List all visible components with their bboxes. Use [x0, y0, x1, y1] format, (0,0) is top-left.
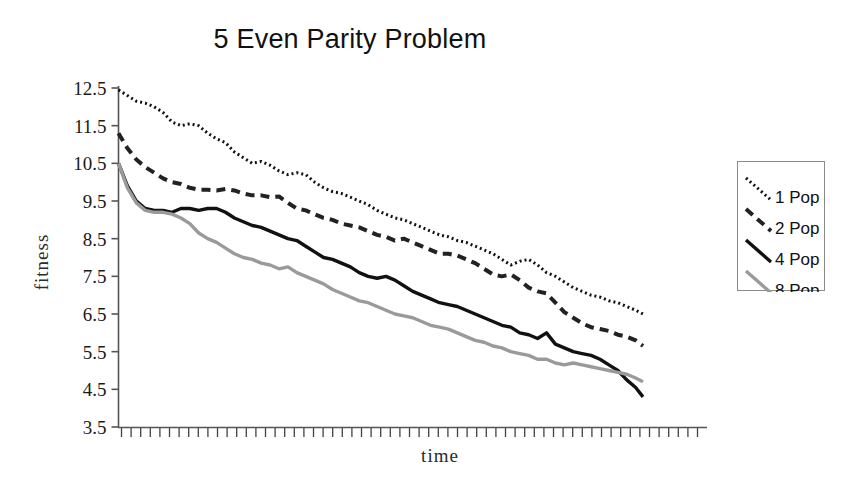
y-tick-label: 11.5 [74, 116, 107, 137]
y-tick-label: 3.5 [83, 417, 107, 438]
series-line-1-pop [119, 90, 644, 314]
y-tick-label: 6.5 [83, 304, 107, 325]
legend-swatch-4-pop [746, 240, 771, 262]
y-tick-label: 12.5 [73, 78, 106, 99]
legend-label-2-pop: 2 Pop [775, 219, 819, 238]
x-axis: time [118, 428, 707, 467]
y-tick-label: 9.5 [83, 191, 107, 212]
y-tick-label: 10.5 [73, 153, 106, 174]
y-tick-label: 4.5 [83, 379, 107, 400]
legend-label-8-pop: 8 Pop [775, 281, 819, 292]
chart-page: 5 Even Parity Problem 12.511.510.59.58.5… [0, 0, 866, 485]
y-tick-label: 5.5 [83, 342, 107, 363]
data-series-group [119, 90, 644, 397]
legend-swatches: 1 Pop2 Pop4 Pop8 Pop [738, 162, 826, 292]
legend-label-1-pop: 1 Pop [775, 188, 819, 207]
series-line-4-pop [119, 163, 644, 397]
y-tick-label: 8.5 [83, 229, 107, 250]
legend: 1 Pop2 Pop4 Pop8 Pop [737, 161, 825, 291]
legend-swatch-8-pop [746, 271, 771, 292]
legend-swatch-2-pop [746, 209, 771, 231]
series-line-2-pop [119, 133, 644, 346]
legend-swatch-1-pop [746, 178, 771, 200]
y-axis-title: fitness [31, 234, 52, 291]
x-axis-ticks [122, 428, 698, 437]
y-axis: 12.511.510.59.58.57.56.55.54.53.5 fitnes… [31, 78, 119, 438]
legend-label-4-pop: 4 Pop [775, 250, 819, 269]
y-axis-tick-labels: 12.511.510.59.58.57.56.55.54.53.5 [73, 78, 106, 438]
y-axis-ticks [112, 88, 119, 427]
x-axis-title: time [421, 445, 459, 466]
y-tick-label: 7.5 [83, 266, 107, 287]
